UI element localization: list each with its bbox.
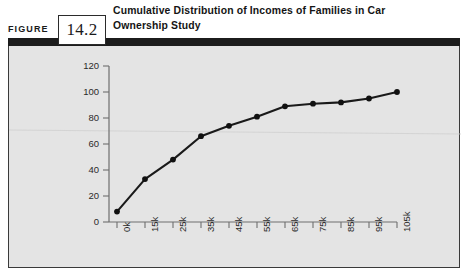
data-point-105k — [394, 89, 400, 95]
y-tick-label-100: 100 — [69, 86, 99, 97]
data-point-45k — [226, 123, 232, 129]
y-tick-label-120: 120 — [69, 60, 99, 71]
series-markers-cumulative-percent — [114, 89, 400, 214]
series-line-cumulative-percent — [117, 92, 397, 212]
data-point-25k — [170, 157, 176, 163]
x-tick-label-105k: 105k — [401, 211, 412, 232]
x-tick-label-55k: 55k — [261, 217, 272, 232]
data-point-55k — [254, 114, 260, 120]
x-tick-label-45k: 45k — [233, 217, 244, 232]
data-point-85k — [338, 100, 344, 106]
figure-number-box: 14.2 — [58, 15, 106, 45]
y-tick-label-40: 40 — [69, 164, 99, 175]
line-chart-plot — [9, 46, 461, 268]
x-tick-label-25k: 25k — [177, 217, 188, 232]
data-point-75k — [310, 101, 316, 107]
y-tick-label-20: 20 — [69, 190, 99, 201]
x-tick-label-65k: 65k — [289, 217, 300, 232]
figure-number: 14.2 — [59, 20, 105, 40]
x-tick-label-85k: 85k — [345, 217, 356, 232]
paper-crease-line — [9, 130, 461, 134]
data-point-0k — [114, 209, 120, 215]
y-axis-ticks — [103, 66, 109, 222]
figure-title: Cumulative Distribution of Incomes of Fa… — [113, 3, 443, 33]
x-tick-label-0k: 0k — [121, 222, 132, 232]
y-tick-label-0: 0 — [69, 216, 99, 227]
x-tick-label-35k: 35k — [205, 217, 216, 232]
x-tick-label-95k: 95k — [373, 217, 384, 232]
y-tick-label-80: 80 — [69, 112, 99, 123]
x-tick-label-75k: 75k — [317, 217, 328, 232]
data-point-65k — [282, 103, 288, 109]
data-point-95k — [366, 96, 372, 102]
data-point-15k — [142, 176, 148, 182]
figure-label: FIGURE — [8, 24, 49, 34]
x-tick-label-15k: 15k — [149, 217, 160, 232]
y-tick-label-60: 60 — [69, 138, 99, 149]
data-point-35k — [198, 133, 204, 139]
figure-panel: 0 20 40 60 80 100 120 0k 15k 25k 35k 45k… — [8, 46, 460, 268]
